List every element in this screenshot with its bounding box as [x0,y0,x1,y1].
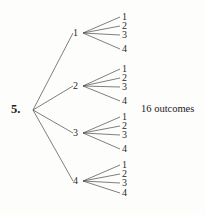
branch-lines [33,17,120,193]
leaf-branch-1-1 [83,17,120,33]
tree-diagram-figure: 5. 1234 1234123412341234 16 outcomes [0,0,205,215]
leaf-node-2-4: 4 [122,96,127,106]
problem-number-label: 5. [11,103,20,116]
leaf-branch-1-2 [83,26,120,33]
trunk-branch-4 [33,110,73,181]
leaf-node-4-4: 4 [122,188,127,198]
leaf-node-1-4: 4 [122,44,127,54]
leaf-branch-1-3 [83,33,120,35]
leaf-node-3-3: 3 [122,130,127,140]
trunk-branch-1 [33,33,73,110]
level1-node-4: 4 [69,176,78,186]
leaf-branch-1-4 [83,33,120,49]
leaf-branch-3-1 [83,117,120,133]
leaf-branch-2-4 [83,86,120,101]
level1-node-2: 2 [69,81,78,91]
leaf-branch-4-1 [83,165,120,181]
leaf-branch-2-1 [83,69,120,86]
trunk-branch-3 [33,110,73,133]
leaf-branch-2-2 [83,78,120,86]
leaf-branch-3-4 [83,133,120,149]
leaf-node-2-3: 3 [122,82,127,92]
leaf-branch-3-2 [83,126,120,133]
leaf-branch-2-3 [83,86,120,87]
outcomes-count-label: 16 outcomes [141,104,194,115]
leaf-node-3-4: 4 [122,144,127,154]
level1-node-3: 3 [69,128,78,138]
leaf-branch-4-2 [83,174,120,181]
level1-node-1: 1 [69,28,78,38]
leaf-branch-3-3 [83,133,120,135]
leaf-node-1-3: 3 [122,30,127,40]
